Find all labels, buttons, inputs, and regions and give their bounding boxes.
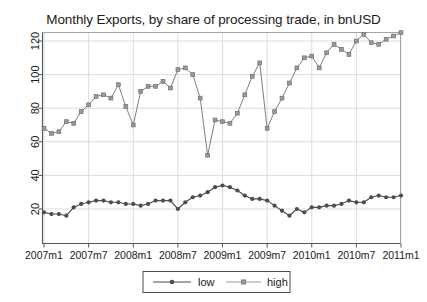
data-point-high [332, 42, 336, 46]
xtick-label: 2008m7 [159, 249, 197, 261]
data-point-high [369, 41, 373, 45]
data-point-low [87, 200, 91, 204]
xtick-label: 2010m7 [337, 249, 375, 261]
ytick-label: 20 [29, 203, 41, 215]
data-point-high [213, 118, 217, 122]
data-point-high [79, 110, 83, 114]
data-point-low [109, 200, 113, 204]
data-point-low [399, 193, 403, 197]
data-point-high [94, 95, 98, 99]
data-point-low [94, 199, 98, 203]
legend-label-high: high [267, 276, 288, 288]
data-point-low [384, 195, 388, 199]
data-point-low [139, 204, 143, 208]
data-point-high [131, 123, 135, 127]
data-point-high [302, 56, 306, 60]
data-point-high [109, 96, 113, 100]
ytick-label: 100 [29, 65, 41, 83]
xtick-label: 2007m1 [25, 249, 63, 261]
data-point-high [116, 83, 120, 87]
data-point-high [161, 79, 165, 83]
data-point-high [310, 54, 314, 58]
data-point-low [258, 197, 262, 201]
data-point-high [102, 93, 106, 97]
data-point-low [64, 214, 68, 218]
axis-frame [43, 33, 401, 244]
data-point-low [198, 193, 202, 197]
ytick-label: 40 [29, 169, 41, 181]
data-point-low [191, 195, 195, 199]
data-point-low [49, 212, 53, 216]
data-point-high [362, 32, 366, 36]
data-point-high [72, 121, 76, 125]
data-point-high [354, 39, 358, 43]
data-point-high [392, 34, 396, 38]
data-point-low [302, 210, 306, 214]
data-point-high [317, 66, 321, 70]
data-point-high [124, 105, 128, 109]
axis-frame-outer [43, 33, 401, 244]
data-point-low [391, 195, 395, 199]
data-point-low [168, 199, 172, 203]
data-point-low [325, 204, 329, 208]
data-point-low [354, 200, 358, 204]
chart-container: Monthly Exports, by share of processing … [0, 0, 427, 302]
data-point-low [42, 210, 46, 214]
data-point-low [146, 202, 150, 206]
data-point-high [191, 73, 195, 77]
ytick-label: 80 [29, 102, 41, 114]
data-point-high [87, 103, 91, 107]
xtick-label: 2009m1 [204, 249, 242, 261]
data-point-high [384, 37, 388, 41]
data-point-high [169, 86, 173, 90]
data-point-low [280, 209, 284, 213]
data-point-low [176, 207, 180, 211]
xtick-label: 2008m1 [114, 249, 152, 261]
data-point-low [116, 200, 120, 204]
data-point-high [64, 120, 68, 124]
data-point-low [265, 199, 269, 203]
data-point-low [153, 199, 157, 203]
data-point-high [340, 48, 344, 52]
data-point-low [310, 205, 314, 209]
data-point-low [272, 204, 276, 208]
data-point-low [213, 185, 217, 189]
data-point-high [399, 31, 403, 35]
data-point-high [198, 96, 202, 100]
data-point-low [377, 193, 381, 197]
data-point-low [317, 205, 321, 209]
legend-marker-low [170, 280, 175, 285]
data-point-low [131, 202, 135, 206]
chart-plot-area: 204060801001202007m12007m72008m12008m720… [0, 0, 427, 302]
data-point-high [183, 66, 187, 70]
data-point-low [362, 200, 366, 204]
legend-marker-high [242, 280, 246, 284]
legend-label-low: low [198, 276, 215, 288]
data-point-high [206, 153, 210, 157]
data-point-low [72, 205, 76, 209]
data-point-high [42, 126, 46, 130]
data-point-high [50, 132, 54, 136]
data-point-low [183, 200, 187, 204]
data-point-low [161, 199, 165, 203]
data-point-high [228, 121, 232, 125]
data-point-high [280, 96, 284, 100]
data-point-low [369, 195, 373, 199]
data-point-high [347, 53, 351, 57]
data-point-high [273, 110, 277, 114]
data-point-high [325, 51, 329, 55]
data-point-high [250, 74, 254, 78]
data-point-high [288, 81, 292, 85]
xtick-label: 2007m7 [70, 249, 108, 261]
data-point-low [57, 212, 61, 216]
data-point-low [347, 199, 351, 203]
data-point-high [221, 120, 225, 124]
data-point-low [79, 202, 83, 206]
data-point-low [250, 197, 254, 201]
data-point-low [206, 190, 210, 194]
data-point-low [243, 193, 247, 197]
data-point-high [176, 68, 180, 72]
data-point-high [139, 90, 143, 94]
data-point-low [235, 188, 239, 192]
data-point-high [154, 84, 158, 88]
